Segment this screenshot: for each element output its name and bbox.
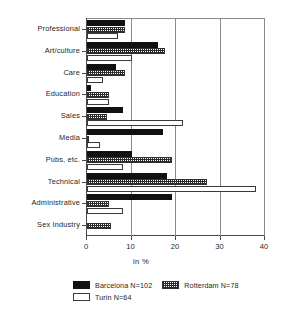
legend-label-barcelona: Barcelona N=102 [95,281,152,290]
category-label-care: Care [0,69,80,77]
y-axis-tick [82,73,86,74]
bar-turin [87,99,109,105]
bar-group [87,171,265,193]
x-tick-40 [264,236,265,240]
category-label-art-culture: Art/culture [0,47,80,55]
bar-barcelona [87,20,125,26]
bar-barcelona [87,42,158,48]
bar-turin [87,142,100,148]
x-axis-ticks [86,236,265,241]
category-label-sex-industry: Sex Industry [0,221,80,229]
legend-item-turin: Turin N=64 [73,293,132,302]
y-axis-tick [82,160,86,161]
category-label-administrative: Administrative [0,199,80,207]
bar-group [87,40,265,62]
bar-turin [87,33,118,39]
x-axis-tick-labels: 010203040 [86,242,265,254]
legend-item-rotterdam: Rotterdam N=78 [162,281,238,290]
solid-black-swatch-icon [73,281,90,289]
category-axis-labels: ProfessionalArt/cultureCareEducationSale… [0,18,80,236]
chart-legend: Barcelona N=102 Rotterdam N=78 Turin N=6… [73,279,273,303]
category-label-media: Media [0,134,80,142]
legend-label-turin: Turin N=64 [95,293,132,302]
bar-group [87,105,265,127]
stippled-swatch-icon [162,281,179,289]
category-label-sales: Sales [0,112,80,120]
y-axis-tick [82,29,86,30]
bar-turin [87,186,256,192]
bar-rotterdam [87,114,107,120]
y-axis-tick [82,138,86,139]
bar-barcelona [87,107,123,113]
bar-turin [87,55,132,61]
x-tick-label-10: 10 [126,242,134,251]
bar-rotterdam [87,70,125,76]
bar-barcelona [87,85,91,91]
bar-barcelona [87,173,167,179]
plot-area [86,18,265,236]
bar-barcelona [87,151,132,157]
y-axis-tick [82,225,86,226]
bar-rotterdam [87,179,207,185]
bar-group [87,127,265,149]
y-axis-tick [82,203,86,204]
bar-barcelona [87,64,116,70]
bar-group [87,83,265,105]
legend-item-barcelona: Barcelona N=102 [73,281,152,290]
bar-rotterdam [87,92,109,98]
bar-group [87,62,265,84]
x-tick-20 [175,236,176,240]
bar-rotterdam [87,157,172,163]
white-swatch-icon [73,293,90,301]
bar-rotterdam [87,201,109,207]
category-label-technical: Technical [0,178,80,186]
bar-group [87,192,265,214]
bar-turin [87,120,183,126]
bar-turin [87,164,123,170]
bar-barcelona [87,129,163,135]
x-tick-30 [220,236,221,240]
bar-group [87,149,265,171]
bar-barcelona [87,194,172,200]
legend-row-2: Turin N=64 [73,291,273,303]
y-axis-tick [82,116,86,117]
bar-turin [87,208,123,214]
legend-row-1: Barcelona N=102 Rotterdam N=78 [73,279,273,291]
x-axis-title: in % [0,257,282,266]
x-tick-10 [131,236,132,240]
y-axis-tick [82,51,86,52]
bar-chart-figure: ProfessionalArt/cultureCareEducationSale… [0,0,282,316]
x-tick-label-30: 30 [215,242,223,251]
y-axis-tick [82,94,86,95]
bar-rotterdam [87,136,89,142]
category-label-education: Education [0,90,80,98]
x-tick-0 [86,236,87,240]
bar-group [87,214,265,236]
x-tick-label-40: 40 [260,242,268,251]
x-tick-label-0: 0 [84,242,88,251]
bar-rotterdam [87,48,165,54]
bar-rotterdam [87,223,111,229]
legend-label-rotterdam: Rotterdam N=78 [184,281,238,290]
category-label-professional: Professional [0,25,80,33]
bar-turin [87,77,103,83]
bar-rotterdam [87,27,125,33]
x-tick-label-20: 20 [171,242,179,251]
category-label-pubs-etc: Pubs, etc. [0,156,80,164]
y-axis-tick [82,182,86,183]
bar-group [87,18,265,40]
